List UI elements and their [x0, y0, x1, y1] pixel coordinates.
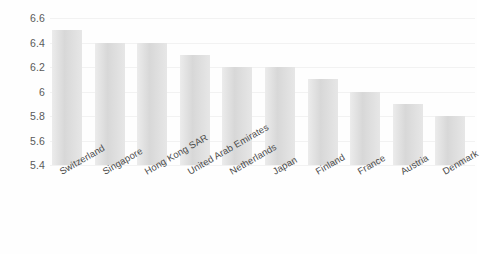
- x-tick-label: Denmark: [441, 148, 480, 176]
- x-tick-label: Austria: [399, 153, 430, 176]
- x-tick-label: Finland: [314, 152, 346, 176]
- x-tick-label: Japan: [271, 155, 299, 176]
- x-tick-label: Switzerland: [58, 143, 106, 176]
- x-tick-label: Singapore: [101, 146, 144, 176]
- x-tick-label: France: [356, 153, 387, 176]
